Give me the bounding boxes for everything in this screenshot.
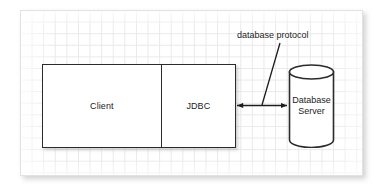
connector-layer	[0, 0, 384, 188]
label-leader-line	[262, 43, 280, 105]
database-protocol-label: database protocol	[237, 30, 309, 41]
jdbc-architecture-diagram: Client JDBC Database Server database pro…	[0, 0, 384, 188]
